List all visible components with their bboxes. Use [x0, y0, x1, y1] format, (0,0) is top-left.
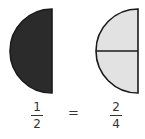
equals-sign: =	[68, 106, 79, 119]
fraction-bar	[31, 115, 43, 116]
fraction-one-half: 1 2	[27, 101, 47, 130]
fraction-shapes	[0, 0, 145, 100]
fraction-two-quarters: 2 4	[106, 101, 126, 130]
numerator: 2	[106, 101, 126, 113]
numerator: 1	[27, 101, 47, 113]
denominator: 4	[106, 118, 126, 130]
half-circle-shaded	[10, 9, 52, 93]
fraction-bar	[110, 115, 122, 116]
denominator: 2	[27, 118, 47, 130]
